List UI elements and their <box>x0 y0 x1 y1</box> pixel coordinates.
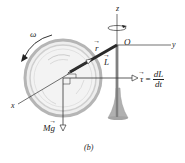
omega-label: ω <box>30 30 36 39</box>
gyroscope-diagram: z O y x ω r L τ = dL dt Mg (b) <box>0 0 185 163</box>
y-axis-label: y <box>172 41 176 49</box>
z-axis-label: z <box>116 5 119 13</box>
x-axis-label: x <box>11 102 15 110</box>
L-vector-label: L <box>104 58 109 67</box>
r-vector-label: r <box>95 44 99 53</box>
precession-arrow <box>108 25 127 31</box>
stand <box>108 45 128 120</box>
origin-label: O <box>124 38 131 47</box>
torque-equation: τ = dL dt <box>140 70 164 89</box>
weight-label: Mg <box>43 124 55 133</box>
figure-caption: (b) <box>84 144 93 152</box>
